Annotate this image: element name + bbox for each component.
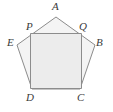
- geometry-diagram: [0, 0, 113, 112]
- vertex-label-q: Q: [79, 21, 87, 32]
- vertex-label-d: D: [26, 92, 34, 103]
- square-pqcd: [31, 34, 82, 89]
- vertex-label-e: E: [7, 37, 14, 48]
- vertex-label-b: B: [96, 37, 103, 48]
- vertex-label-c: C: [77, 92, 84, 103]
- vertex-label-p: P: [26, 21, 33, 32]
- vertex-label-a: A: [52, 1, 59, 12]
- geometry-figure: A P Q E B D C: [0, 0, 113, 112]
